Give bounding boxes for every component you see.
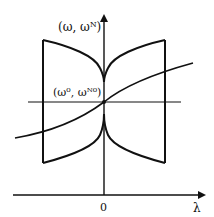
point-label: (ω⁰, ωᴺ⁰) [53,86,101,99]
upper-left-curve [43,40,104,82]
lower-left-curve [43,114,104,163]
origin-label: 0 [100,201,107,214]
diagram-canvas: (ω, ωᴺ) (ω⁰, ωᴺ⁰) 0 λ [0,0,214,217]
upper-right-curve [104,40,165,82]
equilibrium-point [102,100,106,104]
x-axis-label: λ [193,201,201,215]
y-axis-label: (ω, ωᴺ) [58,20,101,34]
lower-right-curve [104,114,165,163]
